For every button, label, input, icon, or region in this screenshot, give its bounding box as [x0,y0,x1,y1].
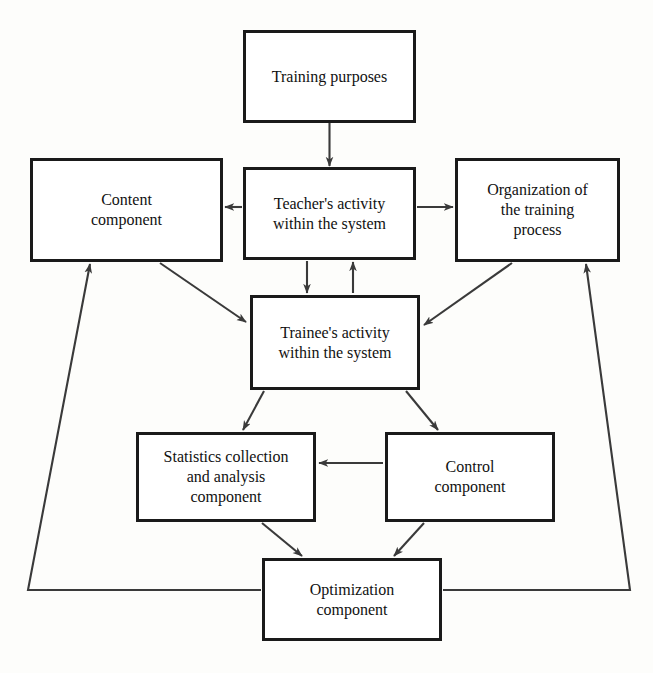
node-trainees-activity-label: Trainee's activity within the system [279,323,392,363]
node-optimization-component-label: Optimization component [310,580,394,620]
edge-trainee-to-statistics [243,391,264,430]
edge-trainee-to-control [406,391,438,430]
node-organization-of-training-process[interactable]: Organization of the training process [455,158,620,262]
edge-statistics-to-optimization [262,523,302,556]
edge-optimization-to-organization [443,264,630,590]
node-content-component-label: Content component [91,190,162,230]
edge-control-to-optimization [394,523,424,556]
edge-optimization-to-content [28,264,261,590]
node-content-component[interactable]: Content component [30,158,223,262]
node-teachers-activity-label: Teacher's activity within the system [273,194,386,234]
node-training-purposes[interactable]: Training purposes [243,30,416,123]
edge-organization-to-trainee [424,263,512,325]
node-control-component-label: Control component [434,457,505,497]
node-teachers-activity[interactable]: Teacher's activity within the system [243,167,416,260]
node-control-component[interactable]: Control component [385,432,555,522]
node-training-purposes-label: Training purposes [272,67,387,87]
node-optimization-component[interactable]: Optimization component [262,558,442,641]
edge-content-to-trainee [160,263,246,322]
node-organization-label: Organization of the training process [487,180,588,240]
node-trainees-activity[interactable]: Trainee's activity within the system [250,295,420,390]
diagram-page: Training purposes Teacher's activity wit… [0,0,653,673]
node-statistics-component[interactable]: Statistics collection and analysis compo… [136,432,316,522]
node-statistics-component-label: Statistics collection and analysis compo… [164,447,289,507]
